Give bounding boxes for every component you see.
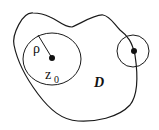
- center-point-z0: [49, 55, 55, 61]
- domain-label: D: [93, 75, 104, 90]
- domain-diagram: ρ z 0 D: [0, 0, 159, 130]
- z-subscript: 0: [54, 74, 59, 85]
- boundary-point: [131, 48, 137, 54]
- rho-label: ρ: [33, 41, 40, 56]
- z-label: z: [45, 67, 51, 82]
- domain-boundary: [14, 13, 137, 121]
- radius-line: [38, 35, 52, 58]
